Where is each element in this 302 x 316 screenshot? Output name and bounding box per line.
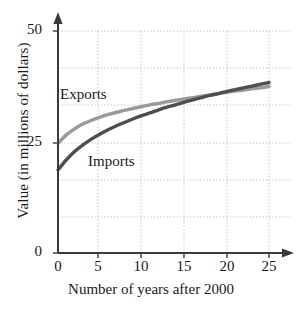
chart-container: 50 25 0 0 5 10 15 20 25 Exports Imports … — [0, 0, 302, 316]
y-axis-arrowhead — [53, 12, 62, 24]
x-axis-title: Number of years after 2000 — [0, 281, 302, 298]
x-tick-label-20: 20 — [212, 258, 242, 275]
series-label-imports: Imports — [88, 153, 135, 170]
series-label-exports: Exports — [60, 86, 107, 103]
y-axis — [53, 12, 62, 253]
x-tick-label-0: 0 — [43, 258, 73, 275]
x-tick-label-15: 15 — [169, 258, 199, 275]
x-tick-label-10: 10 — [126, 258, 156, 275]
x-tick-label-25: 25 — [254, 258, 284, 275]
vertical-gridlines — [98, 31, 269, 253]
x-axis-arrowhead — [282, 248, 294, 257]
y-axis-title: Value (in millions of dollars) — [15, 16, 32, 246]
x-axis — [58, 248, 294, 257]
horizontal-gridlines — [58, 31, 290, 217]
y-tick-label-0: 0 — [8, 243, 42, 260]
x-tick-label-5: 5 — [83, 258, 113, 275]
